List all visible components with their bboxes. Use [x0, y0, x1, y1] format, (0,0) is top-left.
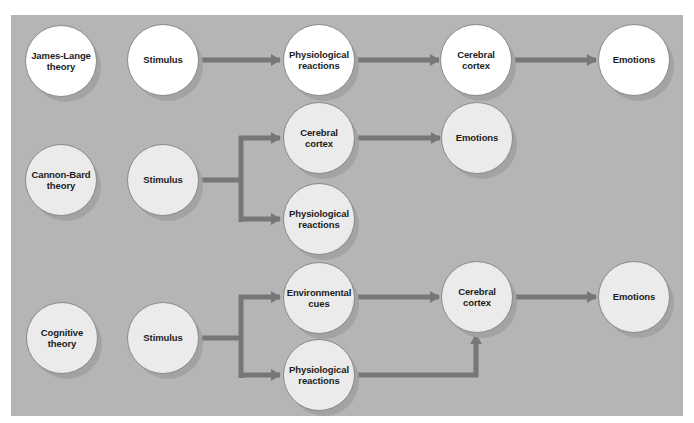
node-label: Cerebral cortex — [300, 127, 338, 150]
node-label: James-Lange theory — [31, 50, 91, 73]
node-label: Cerebral cortex — [458, 286, 496, 309]
node-label: Physiological reactions — [289, 208, 349, 231]
node-jl-stimulus: Stimulus — [127, 24, 199, 96]
node-cb-emotions: Emotions — [441, 102, 513, 174]
node-cognitive-theory: Cognitive theory — [26, 302, 98, 374]
node-james-lange-theory: James-Lange theory — [25, 25, 97, 97]
node-cog-emotions: Emotions — [598, 261, 670, 333]
node-label: Stimulus — [143, 54, 182, 65]
node-label: Stimulus — [143, 332, 182, 343]
node-label: Environmental cues — [287, 287, 352, 310]
node-jl-emotions: Emotions — [598, 24, 670, 96]
node-cb-stimulus: Stimulus — [127, 144, 199, 216]
node-label: Physiological reactions — [289, 49, 349, 72]
node-label: Cannon-Bard theory — [31, 169, 90, 192]
arrow-cog-physiological-to-cortex — [358, 335, 476, 375]
node-cb-physiological-reactions: Physiological reactions — [283, 183, 355, 255]
node-label: Physiological reactions — [289, 364, 349, 387]
node-label: Emotions — [613, 54, 655, 65]
node-cog-cerebral-cortex: Cerebral cortex — [441, 261, 513, 333]
node-cb-cerebral-cortex: Cerebral cortex — [283, 102, 355, 174]
node-cog-physiological-reactions: Physiological reactions — [283, 339, 355, 411]
node-cannon-bard-theory: Cannon-Bard theory — [25, 144, 97, 216]
node-label: Cognitive theory — [41, 327, 83, 350]
node-label: Cerebral cortex — [457, 49, 495, 72]
node-label: Emotions — [456, 132, 498, 143]
node-label: Stimulus — [143, 174, 182, 185]
node-label: Emotions — [613, 291, 655, 302]
node-jl-cerebral-cortex: Cerebral cortex — [440, 24, 512, 96]
node-cog-stimulus: Stimulus — [127, 302, 199, 374]
node-jl-physiological-reactions: Physiological reactions — [283, 24, 355, 96]
node-cog-environmental-cues: Environmental cues — [283, 262, 355, 334]
